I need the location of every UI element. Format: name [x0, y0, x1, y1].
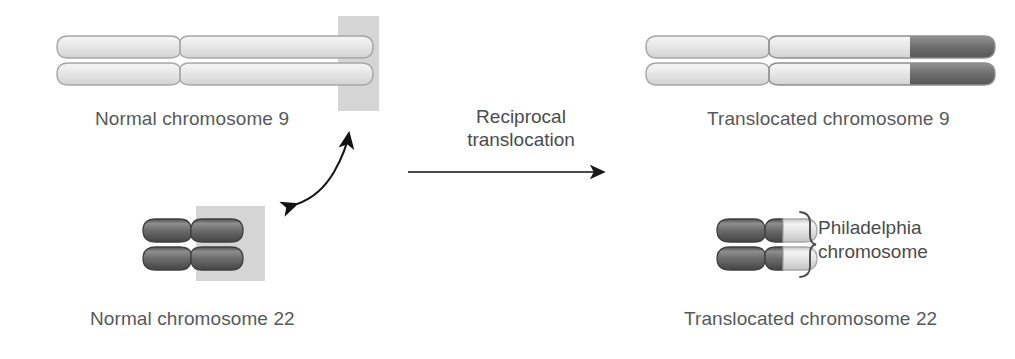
process-label: Reciprocal translocation [431, 105, 611, 151]
exchange-arrow [297, 133, 349, 204]
chromosome-translocation-figure: Normal chromosome 9 Normal chromosome 22… [0, 0, 1015, 359]
translocated-chromosome-9-graphic [640, 30, 1002, 93]
process-label-line2: translocation [431, 128, 611, 151]
philadelphia-label-line1: Philadelphia [818, 216, 928, 240]
process-label-line1: Reciprocal [431, 105, 611, 128]
philadelphia-label-line2: chromosome [818, 240, 928, 264]
diagram-canvas [0, 0, 1015, 359]
philadelphia-chromosome-graphic [717, 219, 817, 270]
label-translocated-chromosome-22: Translocated chromosome 22 [684, 308, 937, 330]
label-normal-chromosome-9: Normal chromosome 9 [95, 108, 289, 130]
philadelphia-chromosome-label: Philadelphia chromosome [818, 216, 928, 264]
label-translocated-chromosome-9: Translocated chromosome 9 [707, 108, 950, 130]
label-normal-chromosome-22: Normal chromosome 22 [90, 308, 295, 330]
